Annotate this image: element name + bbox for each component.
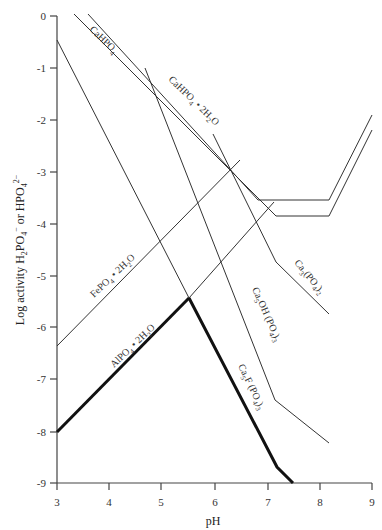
- x-tick: 7: [265, 496, 271, 508]
- x-tick: 9: [369, 496, 375, 508]
- x-tick: 4: [106, 496, 112, 508]
- y-tick: -4: [37, 218, 47, 230]
- phosphate-solubility-chart: 0 -1 -2 -3 -4 -5 -6 -7 -8 -9 3 4 5 6 7 8…: [0, 0, 382, 530]
- curve-labels: CaHPO4 CaHPO4 • 2H2O Ca3(PO4)2 Ca5OH (PO…: [86, 24, 328, 413]
- label-cahpo4-2h2o: CaHPO4 • 2H2O: [165, 74, 222, 130]
- x-tick-labels: 3 4 5 6 7 8 9: [54, 496, 375, 508]
- x-tick: 6: [212, 496, 218, 508]
- label-alpo4: AlPO4 • 2H2O: [108, 321, 159, 371]
- y-tick: -6: [37, 321, 47, 333]
- line-cahpo4-2h2o: [88, 14, 372, 200]
- line-alpo4-extension: [189, 202, 274, 298]
- y-tick: -5: [37, 270, 47, 282]
- y-tick: -3: [37, 166, 47, 178]
- line-cahpo4: [74, 14, 372, 216]
- curves: [57, 14, 372, 443]
- x-tick: 8: [317, 496, 323, 508]
- y-tick: -2: [37, 114, 46, 126]
- label-ca3-po4: Ca3(PO4)2: [290, 257, 327, 298]
- line-fepo4: [57, 160, 240, 346]
- line-ca5oh-po4: [145, 68, 329, 443]
- y-tick: 0: [41, 10, 47, 22]
- y-tick: -7: [37, 373, 47, 385]
- label-cahpo4: CaHPO4: [86, 24, 121, 58]
- x-tick: 5: [158, 496, 164, 508]
- y-tick: -9: [37, 477, 47, 489]
- y-tick-labels: 0 -1 -2 -3 -4 -5 -6 -7 -8 -9: [37, 10, 47, 489]
- label-fepo4: FePO4 • 2H2O: [88, 251, 139, 301]
- y-tick: -1: [37, 62, 46, 74]
- line-alpo4-bold: [57, 298, 189, 432]
- axes: [50, 16, 372, 490]
- y-axis-title: Log activity H2PO4− or HPO42−: [12, 174, 29, 325]
- y-tick: -8: [37, 426, 47, 438]
- x-tick: 3: [54, 496, 60, 508]
- x-axis-title: pH: [206, 514, 221, 528]
- label-ca5oh-po4: Ca5OH (PO4)3: [247, 285, 284, 344]
